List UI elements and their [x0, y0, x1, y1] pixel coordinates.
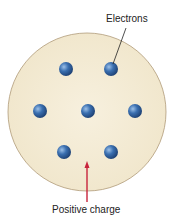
- electrons-label: Electrons: [106, 13, 148, 24]
- electron: [33, 104, 47, 118]
- positive-charge-label: Positive charge: [52, 204, 120, 215]
- electron: [59, 62, 73, 76]
- electron: [104, 145, 118, 159]
- electron: [81, 104, 95, 118]
- electron: [104, 62, 118, 76]
- atom-diagram: [0, 0, 174, 219]
- electron: [57, 145, 71, 159]
- electron: [128, 104, 142, 118]
